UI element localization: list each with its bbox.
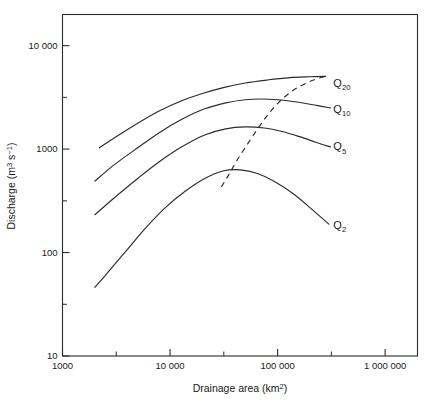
y-tick-label-10000: 10 000 (28, 40, 57, 51)
y-axis-title: Discharge (m3 s−1) (5, 142, 17, 229)
y-tick-label-1000: 1000 (36, 143, 57, 154)
x-tick-label-1000000: 1 000 000 (364, 360, 406, 371)
x-tick-label-1000: 1000 (52, 360, 73, 371)
figure-container: 10 000100010010 100010 000100 0001 000 0… (0, 0, 433, 414)
x-tick-label-100000: 100 000 (260, 360, 294, 371)
y-axis-title-group: Discharge (m3 s−1) (5, 142, 17, 229)
x-axis-title: Drainage area (km2) (193, 382, 288, 394)
y-tick-label-100: 100 (42, 247, 58, 258)
chart-background (0, 0, 433, 414)
discharge-drainage-chart: 10 000100010010 100010 000100 0001 000 0… (0, 0, 433, 414)
x-tick-label-10000: 10 000 (156, 360, 185, 371)
